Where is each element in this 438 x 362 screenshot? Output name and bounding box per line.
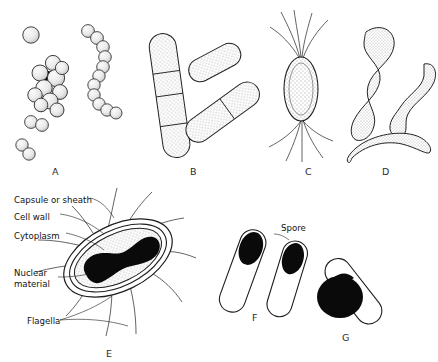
caption-d: D [382, 166, 390, 177]
bacillus-short [185, 39, 245, 86]
staphylococcus-cluster [28, 55, 69, 117]
flagella-top-tuft [270, 10, 328, 59]
spirillum-2 [390, 64, 436, 137]
bacillus-medium [181, 77, 264, 147]
label-nuclear-material: Nuclear material [14, 268, 50, 289]
panel-e-cell-structure [36, 188, 196, 336]
caption-c: C [305, 166, 312, 177]
panel-d-spirilla [347, 28, 435, 163]
caption-g: G [342, 332, 350, 343]
label-cell-wall: Cell wall [14, 212, 50, 223]
panel-g-swollen-spore-cell [317, 253, 387, 329]
label-spore: Spore [281, 223, 306, 234]
panel-c-flagellated-rod [269, 10, 333, 162]
figure-artwork [0, 0, 438, 362]
label-flagella: Flagella [27, 316, 60, 327]
panel-f-spore-cells [216, 226, 311, 320]
diplococci-pairs [16, 116, 49, 161]
panel-b-bacilli [148, 32, 265, 160]
spore-leader-line [274, 234, 289, 240]
panel-a-cocci [16, 25, 122, 161]
bacillus-long [148, 32, 192, 160]
caption-b: B [190, 166, 197, 177]
caption-f: F [252, 312, 258, 323]
streptococcus-chain [82, 25, 122, 119]
bacteria-morphology-figure: A B C D E F G Capsule or sheath Cell wal… [0, 0, 438, 362]
label-capsule-or-sheath: Capsule or sheath [14, 195, 92, 206]
spirillum-1 [351, 28, 394, 141]
label-cytoplasm: Cytoplasm [14, 231, 60, 242]
swollen-spore [317, 276, 363, 318]
caption-e: E [106, 348, 112, 359]
flagella-bottom-tuft [269, 120, 333, 162]
coccus-single [23, 27, 39, 43]
caption-a: A [52, 166, 59, 177]
